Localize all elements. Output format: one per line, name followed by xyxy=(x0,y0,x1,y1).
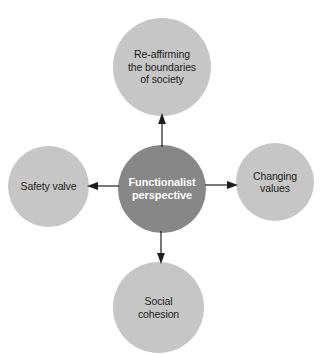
diagram-center-label: Functionalist perspective xyxy=(128,176,195,202)
diagram-node-social-cohesion: Social cohesion xyxy=(113,262,204,353)
arrow-right-icon xyxy=(205,181,238,189)
diagram-node-safety-valve: Safety valve xyxy=(8,146,89,227)
arrow-left-icon xyxy=(87,182,119,190)
diagram-node-label: Re-affirming the boundaries of society xyxy=(128,48,196,85)
arrow-up-icon xyxy=(158,113,166,147)
diagram-node-label: Changing values xyxy=(253,170,297,195)
diagram-node-label: Social cohesion xyxy=(138,295,179,320)
diagram-node-re-affirming-boundaries: Re-affirming the boundaries of society xyxy=(113,18,211,116)
diagram-node-functionalist-perspective: Functionalist perspective xyxy=(118,145,206,233)
arrow-down-icon xyxy=(157,231,165,264)
diagram-node-changing-values: Changing values xyxy=(236,143,314,221)
functionalist-perspective-diagram: Re-affirming the boundaries of society C… xyxy=(0,0,325,354)
diagram-node-label: Safety valve xyxy=(21,180,77,192)
